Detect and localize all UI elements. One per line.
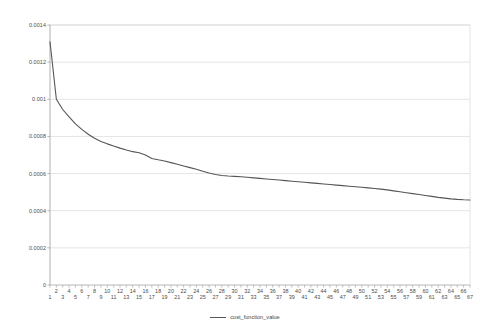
x-axis-label-55: 55 [391, 294, 397, 300]
x-axis-label-44: 44 [321, 288, 327, 294]
x-axis-label-64: 64 [448, 288, 454, 294]
x-axis-label-31: 31 [238, 294, 244, 300]
x-axis-label-28: 28 [219, 288, 225, 294]
y-axis-label-0.0002: 0.0002 [29, 245, 46, 251]
x-axis-label-8: 8 [93, 288, 96, 294]
x-axis-label-6: 6 [80, 288, 83, 294]
chart-container: 00.00020.00040.00060.00080.0010.00120.00… [0, 0, 490, 336]
x-axis-label-35: 35 [263, 294, 269, 300]
x-axis-label-39: 39 [289, 294, 295, 300]
x-axis-label-48: 48 [346, 288, 352, 294]
x-axis-label-67: 67 [467, 294, 473, 300]
x-axis-label-47: 47 [340, 294, 346, 300]
x-axis-label-23: 23 [187, 294, 193, 300]
x-axis-label-54: 54 [384, 288, 390, 294]
x-axis-label-42: 42 [308, 288, 314, 294]
x-axis-label-19: 19 [161, 294, 167, 300]
x-axis-label-58: 58 [410, 288, 416, 294]
x-axis-label-13: 13 [123, 294, 129, 300]
x-axis-label-59: 59 [416, 294, 422, 300]
y-axis-label-0.0004: 0.0004 [29, 208, 46, 214]
x-axis-label-40: 40 [295, 288, 301, 294]
x-axis-label-5: 5 [74, 294, 77, 300]
x-axis-label-45: 45 [327, 294, 333, 300]
legend-label-cost-function-value: cost_function_value [230, 314, 279, 320]
x-axis-label-9: 9 [99, 294, 102, 300]
x-axis-label-1: 1 [48, 294, 51, 300]
x-axis-label-30: 30 [231, 288, 237, 294]
x-axis-label-51: 51 [365, 294, 371, 300]
x-axis-label-24: 24 [193, 288, 199, 294]
x-axis-label-50: 50 [359, 288, 365, 294]
x-axis-label-56: 56 [397, 288, 403, 294]
x-axis-label-3: 3 [61, 294, 64, 300]
x-axis-label-66: 66 [461, 288, 467, 294]
x-axis-label-34: 34 [257, 288, 263, 294]
x-axis-label-49: 49 [352, 294, 358, 300]
series-line-cost-function-value [50, 42, 470, 200]
x-axis-label-16: 16 [142, 288, 148, 294]
x-axis-label-12: 12 [117, 288, 123, 294]
x-axis-label-20: 20 [168, 288, 174, 294]
x-axis-label-33: 33 [251, 294, 257, 300]
x-axis-label-62: 62 [435, 288, 441, 294]
x-axis-label-18: 18 [155, 288, 161, 294]
x-axis-label-65: 65 [454, 294, 460, 300]
x-axis-label-36: 36 [270, 288, 276, 294]
y-axis-label-0.0008: 0.0008 [29, 133, 46, 139]
x-axis-label-10: 10 [104, 288, 110, 294]
x-axis-label-4: 4 [68, 288, 71, 294]
y-axis-label-0.001: 0.001 [32, 96, 46, 102]
x-axis-label-63: 63 [441, 294, 447, 300]
x-axis-label-27: 27 [212, 294, 218, 300]
y-axis-label-0.0012: 0.0012 [29, 59, 46, 65]
x-axis-label-53: 53 [378, 294, 384, 300]
y-axis-label-0: 0 [43, 282, 46, 288]
x-axis-label-32: 32 [244, 288, 250, 294]
legend-line-swatch-cost-function-value [210, 317, 226, 318]
x-axis-label-14: 14 [130, 288, 136, 294]
x-axis-label-46: 46 [333, 288, 339, 294]
x-axis-label-22: 22 [181, 288, 187, 294]
x-axis-label-11: 11 [111, 294, 117, 300]
x-axis-label-21: 21 [174, 294, 180, 300]
x-axis-label-37: 37 [276, 294, 282, 300]
x-axis-label-7: 7 [87, 294, 90, 300]
x-axis-label-52: 52 [371, 288, 377, 294]
x-axis-label-25: 25 [200, 294, 206, 300]
chart-legend: cost_function_value [0, 314, 490, 320]
x-axis-label-57: 57 [403, 294, 409, 300]
x-axis-label-2: 2 [55, 288, 58, 294]
y-axis-label-0.0006: 0.0006 [29, 171, 46, 177]
x-axis-label-41: 41 [301, 294, 307, 300]
x-axis-label-15: 15 [136, 294, 142, 300]
x-axis-label-17: 17 [149, 294, 155, 300]
x-axis-label-43: 43 [314, 294, 320, 300]
x-axis-label-60: 60 [422, 288, 428, 294]
y-axis-label-0.0014: 0.0014 [29, 22, 46, 28]
x-axis-label-61: 61 [429, 294, 435, 300]
x-axis-label-29: 29 [225, 294, 231, 300]
x-axis-label-38: 38 [282, 288, 288, 294]
line-chart-plot [0, 0, 490, 336]
x-axis-label-26: 26 [206, 288, 212, 294]
